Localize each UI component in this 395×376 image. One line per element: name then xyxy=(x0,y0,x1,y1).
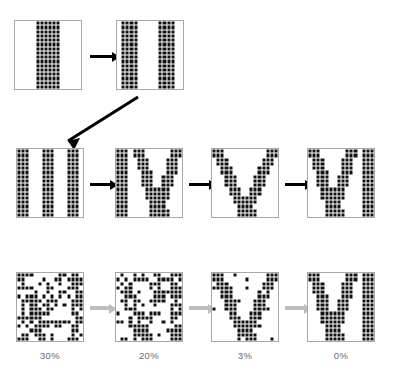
panel-noise-03 xyxy=(211,272,279,342)
arrow-shaft xyxy=(285,306,305,310)
caption-noise-00: 0% xyxy=(307,350,375,361)
caption-noise-03: 3% xyxy=(211,350,279,361)
panel-VI xyxy=(307,148,375,218)
panel-noise-00 xyxy=(307,272,375,342)
grid-cell xyxy=(79,213,83,217)
panel-II xyxy=(116,20,184,90)
grid-cell xyxy=(179,85,183,89)
caption-noise-20: 20% xyxy=(115,350,183,361)
cell-grid xyxy=(17,149,83,217)
grid-cell xyxy=(370,213,374,217)
cell-grid xyxy=(308,149,374,217)
panel-noise-20 xyxy=(115,272,183,342)
cell-grid xyxy=(117,21,183,89)
panel-IV xyxy=(115,148,183,218)
panel-noise-30 xyxy=(16,272,84,342)
arrow-shaft xyxy=(189,306,209,310)
grid-cell xyxy=(79,337,83,341)
grid-cell xyxy=(370,337,374,341)
grid-cell xyxy=(178,213,182,217)
cell-grid xyxy=(116,149,182,217)
panel-V xyxy=(211,148,279,218)
panel-III xyxy=(16,148,84,218)
cell-grid xyxy=(17,273,83,341)
arrow-shaft xyxy=(90,306,110,310)
cell-grid xyxy=(212,149,278,217)
grid-cell xyxy=(274,213,278,217)
panel-I xyxy=(14,20,82,90)
diagonal-arrow-shaft xyxy=(68,97,138,141)
cell-grid xyxy=(15,21,81,89)
cell-grid xyxy=(308,273,374,341)
grid-cell xyxy=(77,85,81,89)
caption-noise-30: 30% xyxy=(16,350,84,361)
figure-canvas: 30% 20% 3% 0% xyxy=(0,0,395,376)
cell-grid xyxy=(116,273,182,341)
cell-grid xyxy=(212,273,278,341)
grid-cell xyxy=(178,337,182,341)
arrow-shaft xyxy=(90,183,111,186)
arrow-shaft xyxy=(90,55,113,58)
arrow-shaft xyxy=(285,183,306,186)
grid-cell xyxy=(274,337,278,341)
arrow-shaft xyxy=(189,183,210,186)
